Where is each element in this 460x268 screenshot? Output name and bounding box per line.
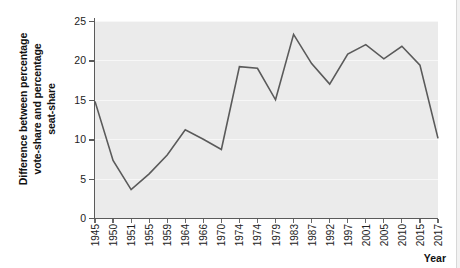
y-axis-title-line-2: vote-share and percentage <box>31 33 45 185</box>
x-tick-mark <box>257 219 258 223</box>
x-tick-label: 1974 <box>234 224 245 246</box>
y-axis-tick-labels: 25 20 15 10 5 0 <box>58 0 86 268</box>
y-axis-title-line-1: Difference between percentage <box>17 33 31 185</box>
x-tick-label: 1992 <box>324 224 335 246</box>
x-tick-label: 1997 <box>342 224 353 246</box>
y-tick-label: 10 <box>60 133 86 145</box>
y-tick-label: 5 <box>60 173 86 185</box>
gridline <box>95 139 438 140</box>
y-tick-mark <box>89 179 95 180</box>
x-tick-mark <box>239 219 240 223</box>
x-tick-mark <box>419 219 420 223</box>
plot-area <box>95 21 438 218</box>
gridline <box>95 100 438 101</box>
x-tick-mark <box>131 219 132 223</box>
y-tick-mark <box>89 60 95 61</box>
y-tick-label: 0 <box>60 212 86 224</box>
x-tick-label: 1950 <box>108 224 119 246</box>
page-right-edge <box>456 0 460 268</box>
chart-figure: Difference between percentage vote-share… <box>0 0 460 268</box>
gridline <box>95 60 438 61</box>
x-tick-label: 1955 <box>144 224 155 246</box>
y-tick-label: 20 <box>60 54 86 66</box>
x-tick-mark <box>437 219 438 223</box>
gridline <box>95 179 438 180</box>
x-tick-mark <box>149 219 150 223</box>
x-axis-line <box>94 218 438 219</box>
x-tick-label: 2015 <box>414 224 425 246</box>
y-tick-mark <box>89 139 95 140</box>
x-tick-label: 1970 <box>216 224 227 246</box>
x-tick-mark <box>383 219 384 223</box>
x-tick-label: 1964 <box>180 224 191 246</box>
x-tick-mark <box>185 219 186 223</box>
x-tick-label: 1945 <box>90 224 101 246</box>
x-tick-label: 1951 <box>126 224 137 246</box>
x-tick-mark <box>221 219 222 223</box>
x-tick-label: 1974 <box>252 224 263 246</box>
x-axis-title: Year <box>424 252 446 264</box>
x-tick-mark <box>401 219 402 223</box>
x-tick-mark <box>203 219 204 223</box>
x-tick-label: 1987 <box>306 224 317 246</box>
x-tick-label: 1966 <box>198 224 209 246</box>
y-tick-mark <box>89 100 95 101</box>
x-tick-mark <box>365 219 366 223</box>
x-tick-label: 2017 <box>433 224 444 246</box>
y-axis-line <box>94 18 95 221</box>
y-tick-label: 25 <box>60 15 86 27</box>
x-tick-mark <box>293 219 294 223</box>
x-tick-mark <box>112 219 113 223</box>
x-tick-mark <box>167 219 168 223</box>
x-tick-label: 1959 <box>162 224 173 246</box>
x-tick-mark <box>347 219 348 223</box>
x-tick-label: 1979 <box>270 224 281 246</box>
x-tick-mark <box>94 219 95 223</box>
x-tick-label: 1983 <box>288 224 299 246</box>
x-tick-label: 2005 <box>378 224 389 246</box>
y-tick-label: 15 <box>60 94 86 106</box>
x-tick-mark <box>275 219 276 223</box>
x-tick-label: 2001 <box>360 224 371 246</box>
x-tick-label: 2010 <box>396 224 407 246</box>
x-tick-mark <box>311 219 312 223</box>
y-tick-mark <box>89 21 95 22</box>
gridline <box>95 21 438 22</box>
x-tick-mark <box>329 219 330 223</box>
y-axis-title-line-3: seat-share <box>45 33 59 185</box>
